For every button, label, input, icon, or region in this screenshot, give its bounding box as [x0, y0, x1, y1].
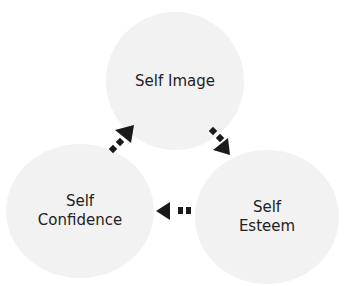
arrow-image-to-esteem — [209, 127, 230, 155]
arrow-esteem-to-confidence — [156, 202, 191, 220]
arrow-confidence-to-image — [109, 125, 134, 153]
arrows-layer — [0, 0, 344, 286]
